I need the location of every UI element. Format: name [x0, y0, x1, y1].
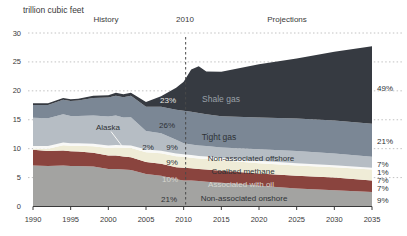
y-tick-label-25: 25: [13, 57, 21, 66]
associated-label: Associated with oil: [208, 180, 274, 189]
x-tick-label-1995: 1995: [62, 215, 79, 224]
x-tick-label-2030: 2030: [326, 215, 343, 224]
x-tick-label-1990: 1990: [25, 215, 42, 224]
share-2010-onshore: 21%: [161, 195, 177, 204]
coalbed-label: Coalbed methane: [211, 167, 275, 176]
offshore-label: Non-associated offshore: [208, 154, 295, 163]
share-2010-alaska: 2%: [142, 143, 154, 152]
alaska-label: Alaska: [96, 123, 121, 132]
share-2035-tight: 21%: [377, 137, 393, 146]
share-2010-coalbed: 9%: [166, 158, 178, 167]
y-tick-label-20: 20: [13, 86, 21, 95]
y-tick-label-0: 0: [17, 202, 21, 211]
natural-gas-production-chart: trillion cubic feet History 2010 Project…: [0, 0, 407, 236]
share-2035-shale: 49%: [377, 84, 393, 93]
onshore-label: Non-associated onshore: [201, 194, 288, 203]
x-tick-label-2025: 2025: [288, 215, 305, 224]
x-tick-label-2000: 2000: [100, 215, 117, 224]
shale-gas-label: Shale gas: [202, 94, 240, 104]
x-tick-label-2015: 2015: [213, 215, 230, 224]
x-tick-label-2035: 2035: [364, 215, 381, 224]
y-tick-label-5: 5: [17, 173, 21, 182]
x-tick-label-2010: 2010: [175, 215, 192, 224]
plot-svg: 1990199520002005201020152020202520302035…: [0, 0, 407, 236]
share-2010-associated: 10%: [162, 175, 178, 184]
x-tick-label-2005: 2005: [138, 215, 155, 224]
share-2035-onshore: 9%: [377, 196, 389, 205]
tight-gas-label: Tight gas: [202, 132, 237, 142]
y-tick-label-15: 15: [13, 115, 21, 124]
y-tick-label-30: 30: [13, 29, 21, 38]
x-tick-label-2020: 2020: [251, 215, 268, 224]
y-tick-label-10: 10: [13, 144, 21, 153]
share-2035-associated: 7%: [377, 184, 389, 193]
share-2010-tight: 26%: [159, 121, 175, 130]
share-2010-offshore: 9%: [166, 143, 178, 152]
share-2010-shale: 23%: [160, 96, 176, 105]
